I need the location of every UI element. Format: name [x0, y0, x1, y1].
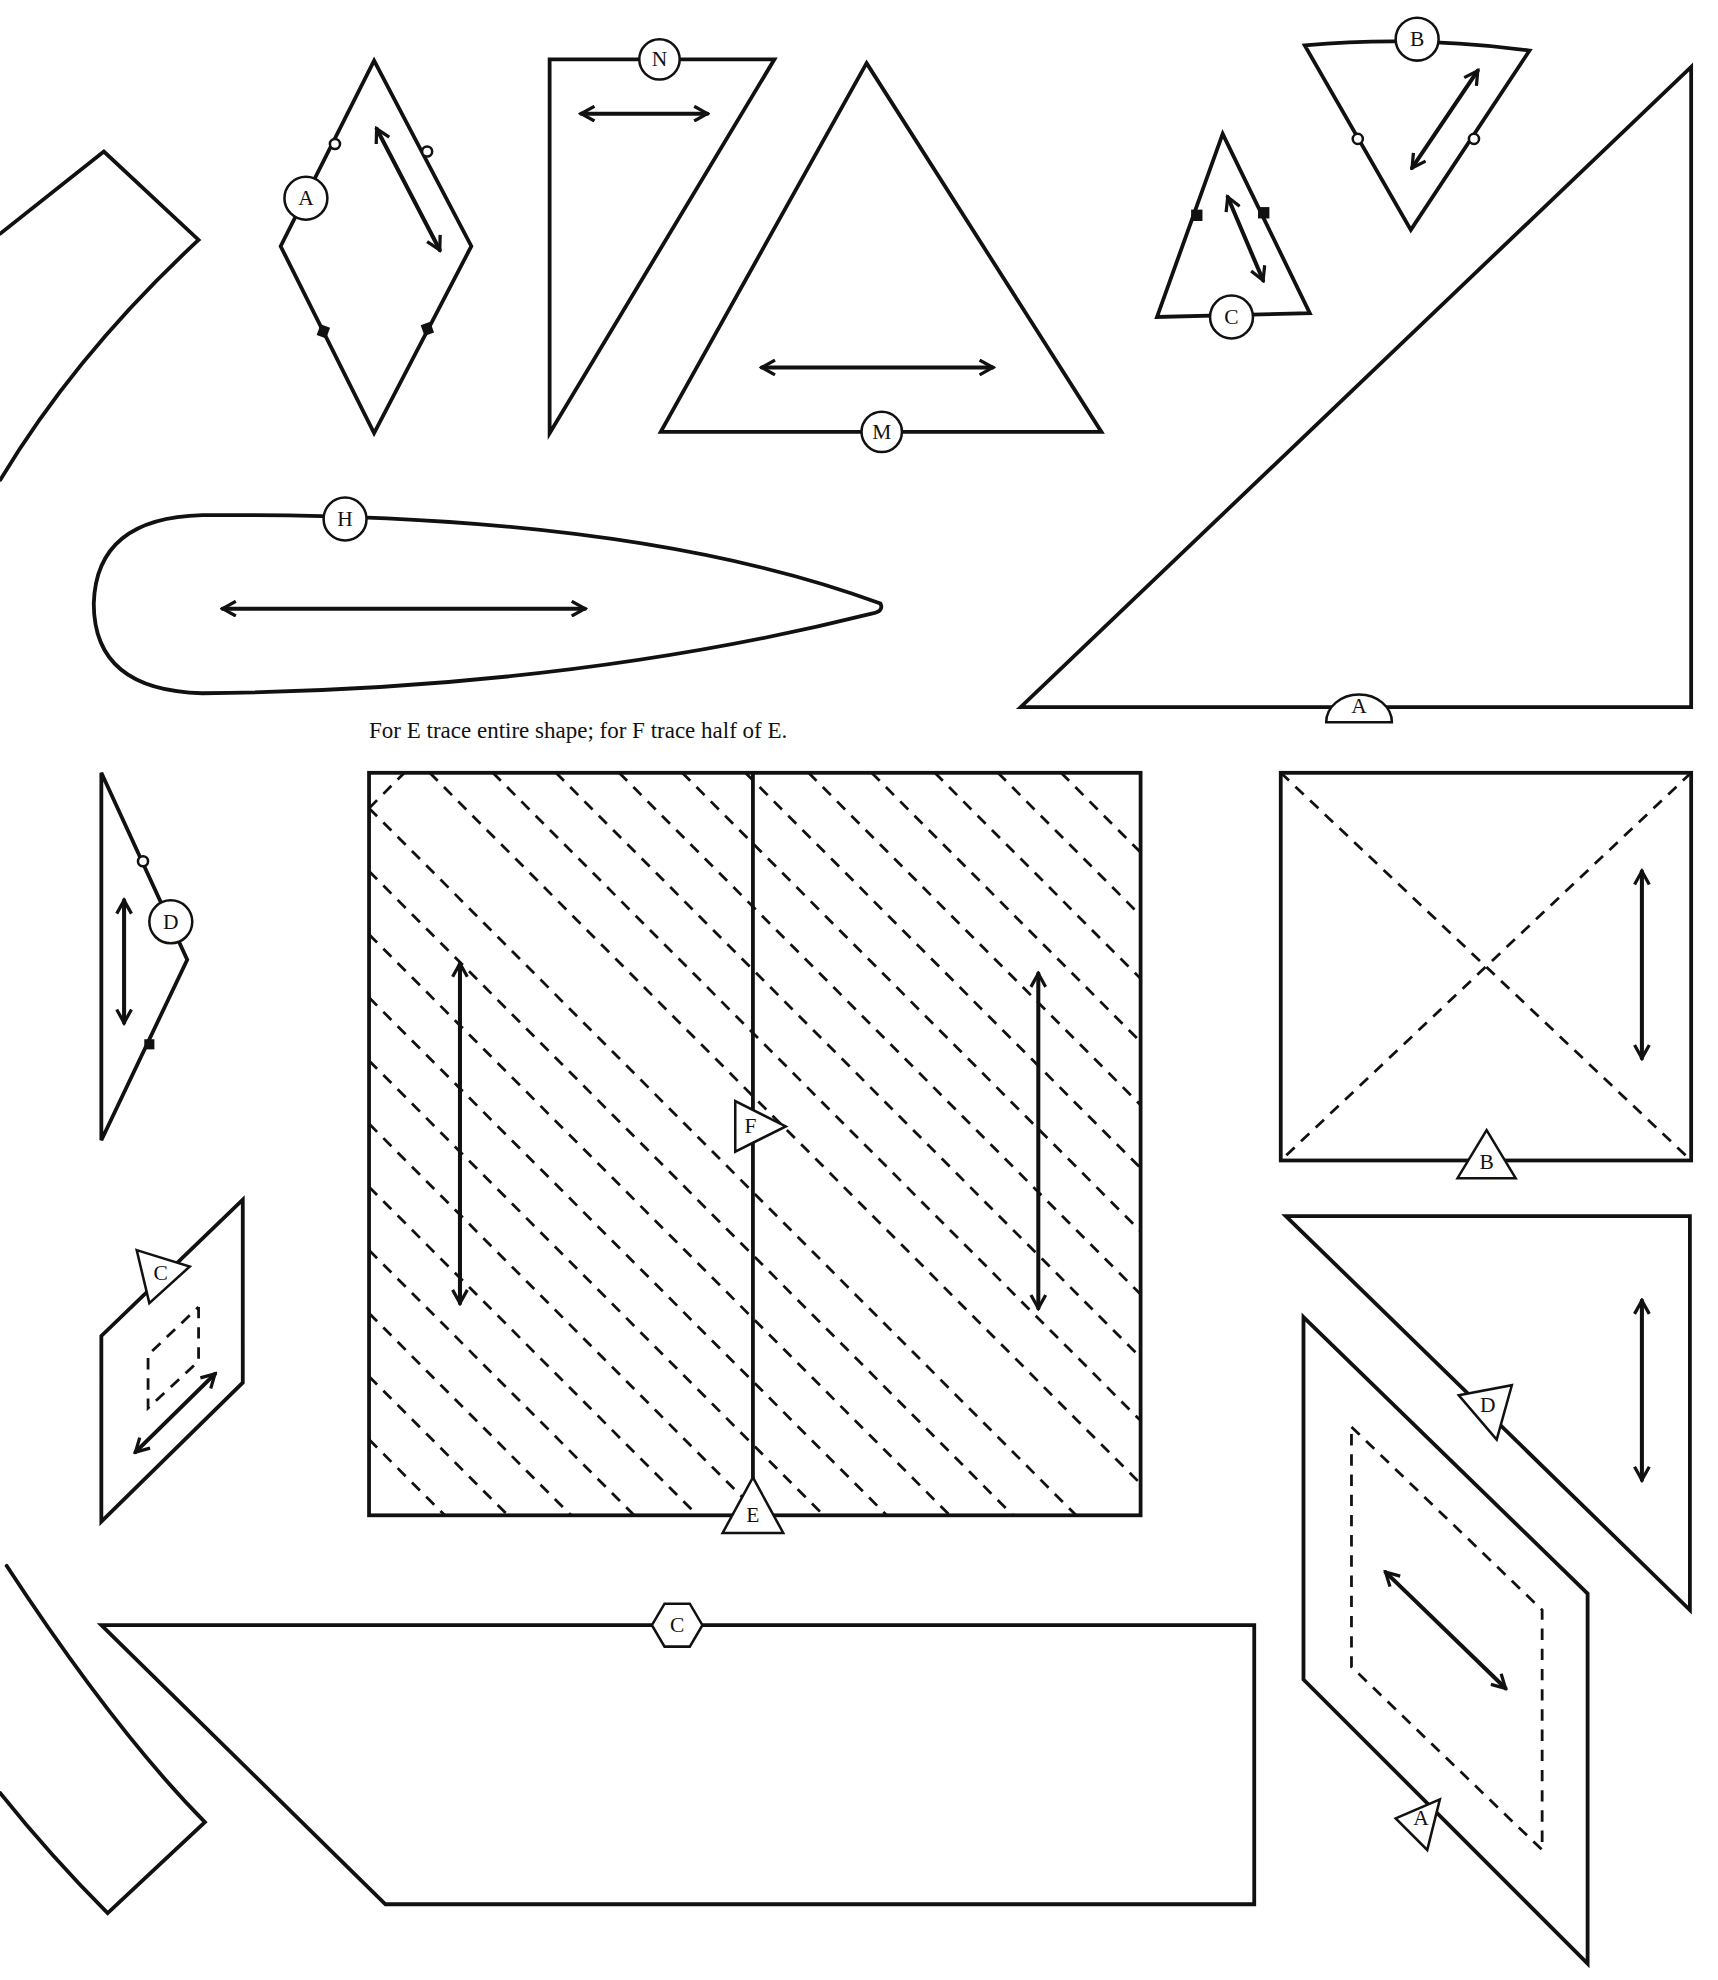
label-F: F: [744, 1114, 756, 1138]
piece-C-parallelogram: C: [101, 1200, 242, 1522]
label-N: N: [652, 47, 668, 71]
piece-A-parallelogram: A: [1303, 1317, 1587, 1964]
curved-strip-top: [0, 152, 198, 480]
label-A-large: A: [1351, 694, 1367, 718]
label-B-square: B: [1479, 1150, 1493, 1174]
label-A: A: [298, 186, 314, 210]
piece-N-triangle: N: [550, 39, 775, 433]
piece-C-trapezoid: C: [101, 1604, 1254, 1905]
label-D: D: [163, 910, 179, 934]
label-C: C: [1224, 305, 1238, 329]
pattern-sheet: A N M C B A H: [0, 0, 1718, 1980]
pattern-drawing: A N M C B A H: [0, 0, 1718, 1980]
label-C-trap: C: [670, 1613, 684, 1637]
piece-A-diamond: A: [281, 61, 472, 434]
label-C-para: C: [154, 1261, 168, 1285]
piece-D-triangle: D: [1286, 1216, 1690, 1610]
label-A-para: A: [1413, 1806, 1429, 1830]
label-D-tri: D: [1480, 1393, 1496, 1417]
piece-E-square: F E: [369, 773, 1141, 1533]
instruction-note: For E trace entire shape; for F trace ha…: [369, 718, 787, 744]
piece-B-square: B: [1281, 773, 1691, 1178]
piece-C-small-triangle: C: [1157, 134, 1310, 339]
label-E: E: [746, 1503, 759, 1527]
label-B: B: [1410, 27, 1424, 51]
piece-H-teardrop: H: [94, 498, 882, 694]
label-M: M: [872, 420, 891, 444]
piece-M-triangle: M: [661, 63, 1102, 452]
label-H: H: [337, 507, 353, 531]
piece-D-strip: D: [101, 773, 192, 1140]
piece-A-large-triangle: A: [1021, 67, 1692, 722]
curved-strip-bottom: [0, 1566, 205, 1913]
piece-B-triangle: B: [1305, 18, 1530, 230]
